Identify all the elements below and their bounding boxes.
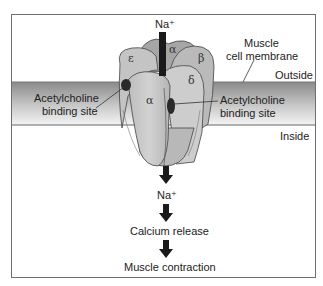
inside-label: Inside (280, 130, 309, 143)
right-binding-label-line1: Acetylcholine (220, 94, 285, 107)
top-ion-label: Na⁺ (155, 18, 175, 31)
cascade-step-calcium: Calcium release (130, 225, 209, 238)
membrane-label-line1: Muscle (244, 37, 279, 50)
ion-channel-pore (159, 32, 166, 76)
arrow-down-icon (159, 166, 173, 184)
arrow-down-icon (159, 204, 173, 222)
left-binding-label-line2: binding site (42, 105, 98, 118)
membrane-label-line2: cell membrane (226, 50, 298, 63)
cascade-step-contraction: Muscle contraction (124, 261, 216, 274)
leader-membrane (243, 60, 254, 82)
subunit-alpha-top-label: α (169, 43, 176, 56)
subunit-beta-label: β (198, 52, 204, 65)
cascade-step-na: Na⁺ (157, 189, 177, 202)
subunit-delta-label: δ (188, 74, 195, 87)
subunit-alpha-front-label: α (146, 94, 153, 107)
cascade-arrows (159, 166, 173, 258)
right-binding-label-line2: binding site (220, 107, 276, 120)
binding-site-right (167, 98, 175, 114)
outside-label: Outside (275, 69, 313, 82)
subunit-epsilon-label: ε (128, 52, 134, 65)
arrow-down-icon (159, 240, 173, 258)
binding-site-left (121, 79, 131, 91)
left-binding-label-line1: Acetylcholine (34, 92, 99, 105)
